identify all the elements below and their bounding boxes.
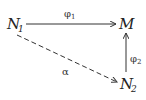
edge-label-phi1-sub: 1 <box>71 13 75 21</box>
edge-label-phi2-sub: 2 <box>137 58 141 66</box>
node-m: M <box>118 15 135 33</box>
node-m-base: M <box>118 15 135 33</box>
edge-label-phi2: φ <box>130 53 137 64</box>
node-n2: N 2 <box>119 75 137 94</box>
edge-label-phi1: φ <box>64 8 71 19</box>
node-n1: N 1 <box>6 15 24 34</box>
node-n1-sub: 1 <box>18 24 24 34</box>
edge-n1-to-n2: α <box>17 35 117 82</box>
node-n2-sub: 2 <box>130 84 137 94</box>
edge-n1-to-m: φ 1 <box>26 8 116 24</box>
commutative-diagram: N 1 M N 2 φ 1 φ 2 α <box>0 0 146 100</box>
edge-n2-to-m: φ 2 <box>126 33 141 72</box>
edge-label-alpha: α <box>62 66 69 77</box>
